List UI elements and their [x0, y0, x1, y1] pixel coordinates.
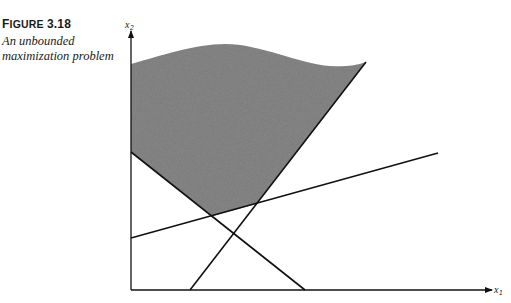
feasible-region [131, 44, 366, 216]
x1-axis-label: x1 [493, 284, 503, 296]
x2-axis-label: x2 [124, 19, 134, 31]
lp-diagram: x2 x1 [0, 0, 511, 303]
